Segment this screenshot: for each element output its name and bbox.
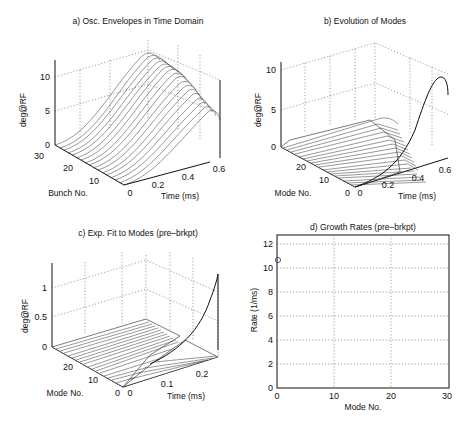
panel-b-xlabel: Time (ms) xyxy=(398,191,436,201)
panel-c-ylabel: Mode No. xyxy=(47,388,84,398)
svg-text:10: 10 xyxy=(88,375,98,385)
svg-text:10: 10 xyxy=(40,72,50,82)
panel-c: c) Exp. Fit to Modes (pre–brkpt) 1 0 xyxy=(20,228,218,401)
svg-text:10: 10 xyxy=(266,65,276,75)
svg-text:8: 8 xyxy=(268,287,273,297)
svg-text:0.6: 0.6 xyxy=(439,165,452,175)
svg-text:0.4: 0.4 xyxy=(412,173,425,183)
panel-b-title: b) Evolution of Modes xyxy=(324,16,406,26)
panel-b-zlabel: deg@RF xyxy=(253,93,263,127)
panel-d: d) Growth Rates (pre–brkpt) 0 2 4 6 8 10… xyxy=(249,222,452,412)
svg-text:0: 0 xyxy=(115,388,120,398)
svg-text:0.2: 0.2 xyxy=(152,180,165,190)
svg-text:20: 20 xyxy=(386,391,396,401)
svg-text:0.2: 0.2 xyxy=(196,369,209,379)
svg-text:2: 2 xyxy=(268,359,273,369)
svg-text:20: 20 xyxy=(63,362,73,372)
svg-text:0.5: 0.5 xyxy=(34,312,47,322)
svg-text:10: 10 xyxy=(263,263,273,273)
svg-text:0: 0 xyxy=(42,342,47,352)
svg-text:10: 10 xyxy=(89,176,99,186)
panel-c-xlabel: Time (ms) xyxy=(167,391,205,401)
panel-b-ylabel: Mode No. xyxy=(275,188,312,198)
figure: a) Osc. Envelopes in Time Domain xyxy=(0,0,475,423)
svg-text:12: 12 xyxy=(263,239,273,249)
svg-text:0: 0 xyxy=(127,188,132,198)
panel-d-xlabel: Mode No. xyxy=(345,402,382,412)
panel-d-axes xyxy=(277,235,449,388)
svg-text:0: 0 xyxy=(268,383,273,393)
panel-a-xlabel: Time (ms) xyxy=(161,191,199,201)
svg-text:0: 0 xyxy=(127,388,132,398)
svg-text:30: 30 xyxy=(442,391,452,401)
panel-b-surface xyxy=(281,77,448,187)
svg-text:0: 0 xyxy=(274,391,279,401)
panel-a-title: a) Osc. Envelopes in Time Domain xyxy=(73,16,204,26)
panel-d-title: d) Growth Rates (pre–brkpt) xyxy=(310,222,416,232)
svg-text:0: 0 xyxy=(345,188,350,198)
svg-text:0: 0 xyxy=(271,142,276,152)
panel-d-ylabel: Rate (1/ms) xyxy=(249,288,259,333)
svg-text:30: 30 xyxy=(34,151,44,161)
svg-text:0: 0 xyxy=(45,140,50,150)
svg-text:0.4: 0.4 xyxy=(182,172,195,182)
panel-a-zlabel: deg@RF xyxy=(18,93,28,127)
svg-text:0.1: 0.1 xyxy=(161,379,174,389)
svg-text:0.2: 0.2 xyxy=(382,180,395,190)
panel-c-zlabel: deg@RF xyxy=(20,299,30,333)
svg-text:5: 5 xyxy=(271,105,276,115)
panel-a-ylabel: Bunch No. xyxy=(48,188,88,198)
svg-text:0.6: 0.6 xyxy=(213,164,226,174)
svg-text:0: 0 xyxy=(357,188,362,198)
panel-b: b) Evolution of Modes xyxy=(253,16,451,201)
svg-text:10: 10 xyxy=(329,391,339,401)
svg-text:20: 20 xyxy=(63,163,73,173)
svg-text:20: 20 xyxy=(296,162,306,172)
svg-text:4: 4 xyxy=(268,335,273,345)
svg-text:1: 1 xyxy=(42,283,47,293)
data-point-mode-0 xyxy=(275,257,280,262)
svg-text:6: 6 xyxy=(268,311,273,321)
panel-a: a) Osc. Envelopes in Time Domain xyxy=(18,16,225,201)
panel-c-title: c) Exp. Fit to Modes (pre–brkpt) xyxy=(78,228,198,238)
svg-text:10: 10 xyxy=(319,175,329,185)
svg-text:5: 5 xyxy=(45,106,50,116)
